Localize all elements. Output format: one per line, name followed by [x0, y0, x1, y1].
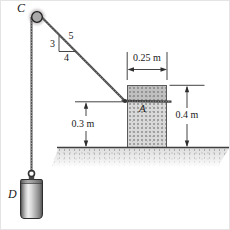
block-width-dimension-label: 0.25 m: [124, 53, 170, 63]
pulley-wheel: [32, 12, 43, 23]
block-label: A: [139, 103, 146, 114]
slope-run-label: 4: [62, 53, 71, 63]
slope-hypotenuse-label: 5: [67, 31, 76, 41]
rope-knot: [123, 99, 127, 103]
dim-rope-height-arrow-top: [84, 102, 88, 109]
dim-height-arrow-bottom: [185, 140, 189, 147]
mechanics-diagram: C 3 5 4 0.25 m A 0.4 m 0.3 m D: [0, 0, 230, 230]
diagonal-rope: [39, 15, 125, 102]
dim-height-arrow-top: [185, 86, 189, 93]
block-height-dimension-label: 0.4 m: [168, 110, 206, 120]
pulley-label: C: [17, 2, 25, 14]
dim-rope-height-arrow-bottom: [84, 140, 88, 147]
dim-width-arrow-left: [128, 67, 135, 71]
weight-label: D: [8, 188, 17, 200]
rope-height-dimension-label: 0.3 m: [66, 119, 100, 129]
wrap-rope: [122, 99, 172, 103]
slope-rise-label: 3: [48, 39, 57, 49]
dim-width-arrow-right: [161, 67, 168, 71]
